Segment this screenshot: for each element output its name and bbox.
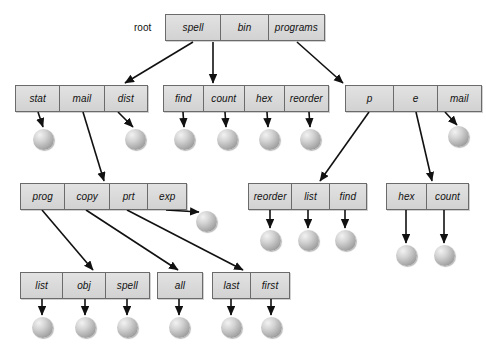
tree-node-prog-dir[interactable]: listobjspell [20,272,150,299]
tree-node-bin-dir[interactable]: findcounthexreorder [163,85,329,112]
leaf-node-icon [32,317,53,338]
edge-programs [297,42,343,83]
edge-e [416,112,432,181]
leaf-node-icon [261,317,282,338]
leaf-node-icon [259,129,280,150]
node-cell-prt[interactable]: prt [110,184,149,209]
edge-pmail [445,112,457,125]
node-cell-mail[interactable]: mail [438,86,481,111]
tree-node-spell-dir[interactable]: statmaildist [15,85,148,112]
node-cell-dist[interactable]: dist [105,86,147,111]
node-cell-hex[interactable]: hex [387,184,427,209]
tree-node-programs-dir[interactable]: pemail [345,85,482,112]
leaf-node-icon [169,317,190,338]
edge-mail [83,112,104,181]
node-cell-hex[interactable]: hex [245,86,285,111]
edge-p [320,112,369,181]
leaf-node-icon [448,126,469,147]
edge-prt [127,210,243,270]
node-cell-count[interactable]: count [427,184,468,209]
node-cell-copy[interactable]: copy [65,184,109,209]
edge-reorder [309,112,310,127]
edge-spell [125,42,193,83]
node-cell-find[interactable]: find [164,86,204,111]
node-cell-exp[interactable]: exp [148,184,186,209]
tree-node-root[interactable]: spellbinprograms [165,14,325,41]
edge-layer [0,0,486,354]
node-cell-list[interactable]: list [292,184,329,209]
tree-node-copy-dir[interactable]: all [157,272,203,299]
node-cell-last[interactable]: last [213,273,251,298]
node-cell-count[interactable]: count [204,86,246,111]
edge-exp [166,210,199,212]
leaf-node-icon [117,317,138,338]
node-cell-programs[interactable]: programs [269,15,324,40]
tree-node-mail-dir[interactable]: progcopyprtexp [20,183,187,210]
node-cell-spell[interactable]: spell [166,15,221,40]
tree-node-prt-dir[interactable]: lastfirst [212,272,290,299]
node-cell-prog[interactable]: prog [21,184,65,209]
leaf-node-icon [335,230,356,251]
node-cell-bin[interactable]: bin [221,15,268,40]
root-label: root [134,22,151,33]
leaf-node-icon [75,317,96,338]
leaf-node-icon [396,245,417,266]
node-cell-spell[interactable]: spell [106,273,149,298]
node-cell-reorder[interactable]: reorder [285,86,328,111]
leaf-node-icon [221,317,242,338]
leaf-node-icon [300,129,321,150]
node-cell-e[interactable]: e [394,86,437,111]
leaf-node-icon [217,129,238,150]
tree-node-e-dir[interactable]: hexcount [386,183,469,210]
leaf-node-icon [196,211,217,232]
node-cell-reorder[interactable]: reorder [249,184,292,209]
edge-prog [42,210,93,270]
node-cell-obj[interactable]: obj [63,273,105,298]
leaf-node-icon [260,230,281,251]
node-cell-p[interactable]: p [346,86,394,111]
edge-hex [267,112,268,127]
edge-copy [86,210,178,270]
node-cell-first[interactable]: first [251,273,289,298]
node-cell-all[interactable]: all [158,273,202,298]
node-cell-list[interactable]: list [21,273,63,298]
edge-dist [118,112,133,127]
tree-diagram-canvas: root spellbinprogramsstatmaildistfindcou… [0,0,486,354]
tree-node-p-dir[interactable]: reorderlistfind [248,183,367,210]
leaf-node-icon [33,129,54,150]
leaf-node-icon [125,129,146,150]
edge-find [183,112,184,127]
leaf-node-icon [298,230,319,251]
node-cell-stat[interactable]: stat [16,86,60,111]
node-cell-mail[interactable]: mail [60,86,104,111]
edge-stat [38,112,43,127]
leaf-node-icon [174,129,195,150]
node-cell-find[interactable]: find [330,184,366,209]
edge-count [225,112,226,127]
leaf-node-icon [434,245,455,266]
